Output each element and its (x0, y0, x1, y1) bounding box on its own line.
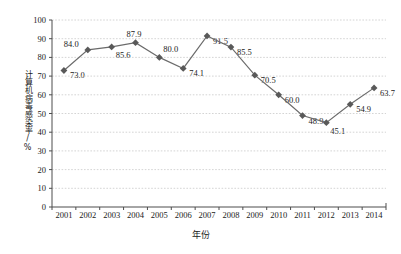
plot-canvas (0, 0, 401, 254)
data-point-marker (132, 39, 139, 46)
data-point-markers (61, 32, 378, 126)
gridlines (52, 20, 386, 188)
data-point-marker (371, 84, 378, 91)
virus-infection-rate-line-chart: 计算机病毒感染率/% 年份 0102030405060708090100 200… (0, 0, 401, 254)
data-point-marker (156, 54, 163, 61)
data-point-marker (108, 44, 115, 51)
